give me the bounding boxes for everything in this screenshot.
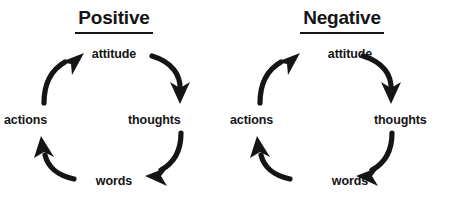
- diagram-canvas: Positive attitude t: [0, 0, 457, 207]
- arrow-attitude-to-thoughts: [363, 56, 401, 104]
- arrow-words-to-actions: [34, 136, 74, 179]
- cycle-panel-negative: Negative attitude t: [228, 0, 456, 207]
- node-label-attitude: attitude: [236, 47, 457, 61]
- node-label-actions: actions: [230, 113, 326, 127]
- cycle-panel-positive: Positive attitude t: [0, 0, 228, 207]
- node-label-words: words: [0, 174, 228, 188]
- node-label-attitude: attitude: [0, 47, 228, 61]
- node-label-thoughts: thoughts: [128, 113, 224, 127]
- node-label-words: words: [236, 174, 457, 188]
- arrow-attitude-to-thoughts: [152, 56, 190, 104]
- node-label-actions: actions: [4, 113, 100, 127]
- node-label-thoughts: thoughts: [374, 113, 457, 127]
- arrow-words-to-actions: [250, 136, 290, 179]
